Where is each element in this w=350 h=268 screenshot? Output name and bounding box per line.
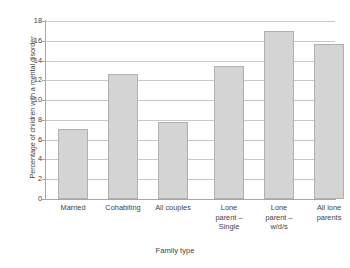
- y-axis-tick-label: 10: [24, 96, 42, 104]
- bar: [108, 74, 138, 199]
- bar: [58, 129, 88, 199]
- y-axis-tick-mark: [42, 179, 45, 180]
- y-axis-tick-mark: [42, 80, 45, 81]
- y-axis-tick-mark: [42, 21, 45, 22]
- y-axis-tick-labels: 024681012141618: [20, 0, 42, 268]
- y-axis-tick-label: 16: [24, 37, 42, 45]
- y-axis-tick-label: 12: [24, 76, 42, 84]
- x-axis-title: Family type: [0, 246, 350, 255]
- y-axis-tick-label: 4: [24, 155, 42, 163]
- plot-area: [46, 21, 335, 199]
- x-axis-tick-label-line: parents: [299, 213, 350, 223]
- y-axis-tick-label: 6: [24, 136, 42, 144]
- bar: [314, 44, 344, 199]
- y-axis-tick-label: 2: [24, 175, 42, 183]
- y-axis-tick-mark: [42, 159, 45, 160]
- y-axis-tick-label: 8: [24, 116, 42, 124]
- y-axis-tick-mark: [42, 120, 45, 121]
- y-axis-tick-label: 18: [24, 17, 42, 25]
- y-axis-tick-mark: [42, 100, 45, 101]
- y-axis-tick-label: 0: [24, 195, 42, 203]
- bar-chart: Percentage of children with a mental dis…: [0, 0, 350, 268]
- x-axis-tick-label-line: w/d/s: [249, 222, 309, 232]
- bar: [214, 66, 244, 200]
- bar: [264, 31, 294, 199]
- x-axis-tick-label-line: All couples: [143, 203, 203, 213]
- gridline: [46, 21, 335, 22]
- x-axis-line: [45, 199, 336, 200]
- x-axis-tick-label: All couples: [143, 203, 203, 213]
- x-axis-tick-label-line: All lone: [299, 203, 350, 213]
- y-axis-tick-mark: [42, 140, 45, 141]
- y-axis-tick-label: 14: [24, 57, 42, 65]
- x-axis-tick-label: All loneparents: [299, 203, 350, 222]
- y-axis-tick-mark: [42, 41, 45, 42]
- y-axis-tick-mark: [42, 61, 45, 62]
- y-axis-tick-mark: [42, 199, 45, 200]
- bar: [158, 122, 188, 199]
